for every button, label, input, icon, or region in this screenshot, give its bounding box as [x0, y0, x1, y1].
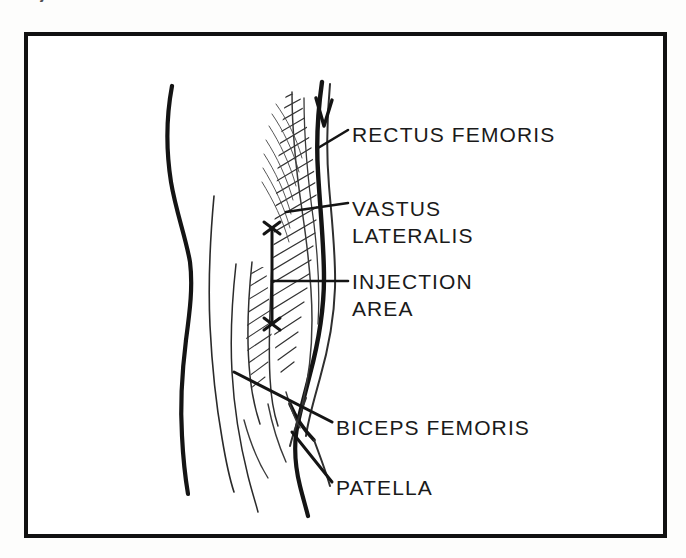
label-biceps-femoris: BICEPS FEMORIS: [336, 414, 530, 441]
label-rectus-femoris-line-1: RECTUS FEMORIS: [352, 121, 555, 148]
figure-page: Injection sites: [0, 0, 686, 558]
label-injection-area-line-1: INJECTION: [352, 268, 473, 295]
label-injection-area: INJECTION AREA: [352, 268, 473, 322]
label-biceps-femoris-line-1: BICEPS FEMORIS: [336, 414, 530, 441]
label-vastus-lateralis: VASTUS LATERALIS: [352, 195, 474, 249]
label-vastus-lateralis-line-1: VASTUS: [352, 195, 474, 222]
caption-text: Injection sites: [26, 0, 134, 1]
label-injection-area-line-2: AREA: [352, 295, 473, 322]
label-vastus-lateralis-line-2: LATERALIS: [352, 222, 474, 249]
label-patella: PATELLA: [336, 474, 433, 501]
label-patella-line-1: PATELLA: [336, 474, 433, 501]
figure-border: [24, 32, 667, 538]
label-rectus-femoris: RECTUS FEMORIS: [352, 121, 555, 148]
cropped-caption-remnant: Injection sites: [0, 0, 686, 14]
